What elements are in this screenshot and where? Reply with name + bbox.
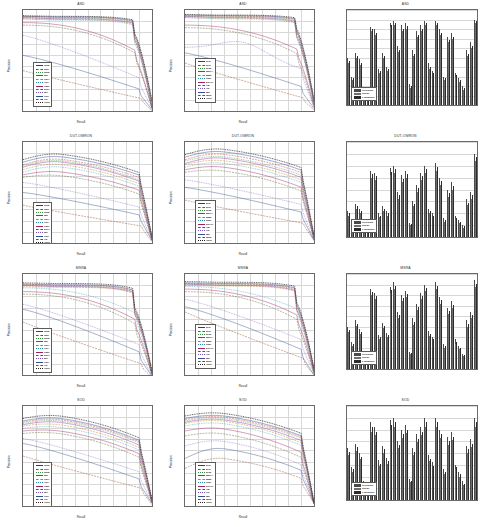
- legend-label: Ours: [206, 97, 212, 100]
- bar: [441, 300, 442, 369]
- legend-swatch: [198, 61, 205, 62]
- bar: [418, 188, 419, 237]
- legend-row: Ours: [36, 501, 50, 504]
- bar-group: [401, 142, 404, 237]
- bar: [437, 286, 438, 369]
- legend-swatch: [198, 482, 205, 483]
- bar-group: [451, 274, 454, 369]
- bar-legend: PrecisionRecallF-measure: [351, 87, 377, 101]
- panel-r2c2: DUT-OMRON0.20.30.40.50.60.70.80.9100.10.…: [162, 132, 324, 264]
- legend-swatch: [36, 242, 43, 243]
- legend-label: Ours: [44, 367, 50, 370]
- legend-swatch: [198, 240, 205, 241]
- panel-r1c2: ASD0.20.30.40.50.60.70.80.9100.10.20.30.…: [162, 0, 324, 132]
- bar: [422, 432, 423, 500]
- bar-group: [382, 274, 385, 369]
- panel-r2c3: DUT-OMRON00.10.20.30.40.50.60.70.8ACAIMC…: [324, 132, 487, 264]
- bar: [426, 23, 427, 105]
- bar-group: [390, 10, 393, 105]
- bar-group: [474, 10, 477, 105]
- gridline-horizontal: [347, 500, 477, 501]
- bar: [418, 35, 419, 105]
- bar: [403, 29, 404, 105]
- bar: [388, 69, 389, 105]
- bar-group: [474, 142, 477, 237]
- x-axis-label: Recall: [0, 120, 162, 124]
- curve-legend: ELEELDELMBSCABMDRSDDCHOHBHSMRMRDOurs: [195, 200, 216, 244]
- y-axis-label: Precision: [7, 60, 11, 73]
- legend-swatch: [36, 232, 43, 233]
- bar: [414, 204, 415, 237]
- bar-group: [405, 274, 408, 369]
- legend-swatch: [36, 345, 43, 346]
- bar: [476, 157, 477, 237]
- bar-group: [462, 406, 465, 500]
- legend-swatch: [36, 486, 43, 487]
- bar-group: [412, 406, 415, 500]
- legend-swatch: [198, 327, 205, 328]
- bar-group: [420, 142, 423, 237]
- bar-group: [347, 274, 350, 369]
- bar: [395, 23, 396, 105]
- bar-group: [405, 142, 408, 237]
- bar-group: [397, 142, 400, 237]
- bar: [453, 186, 454, 237]
- legend-swatch: [36, 219, 43, 220]
- bar-legend: PrecisionRecallF-measure: [351, 219, 377, 233]
- legend-swatch: [354, 225, 361, 227]
- bar-group: [412, 142, 415, 237]
- bar-group: [378, 274, 381, 369]
- bar: [445, 472, 446, 500]
- bar-group: [439, 406, 442, 500]
- bar: [449, 193, 450, 237]
- legend-swatch: [36, 75, 43, 76]
- bar: [384, 56, 385, 105]
- y-axis-label: Precision: [7, 192, 11, 205]
- bar-group: [393, 10, 396, 105]
- bar-group: [455, 10, 458, 105]
- bar-group: [466, 406, 469, 500]
- legend-swatch: [36, 358, 43, 359]
- panel-title: DUT-OMRON: [324, 134, 487, 138]
- bar-group: [382, 10, 385, 105]
- legend-swatch: [36, 341, 43, 342]
- bar: [411, 86, 412, 105]
- legend-row: Ours: [198, 97, 214, 100]
- bar-group: [378, 406, 381, 500]
- bar-group: [458, 142, 461, 237]
- bar-group: [393, 406, 396, 500]
- bar: [411, 224, 412, 237]
- bar: [395, 422, 396, 500]
- legend-swatch: [36, 362, 43, 363]
- bar: [476, 21, 477, 105]
- legend-swatch: [198, 95, 205, 96]
- bar: [430, 211, 431, 237]
- bar-group: [424, 10, 427, 105]
- legend-row: F-measure: [354, 360, 375, 363]
- legend-swatch: [36, 215, 43, 216]
- bar: [407, 430, 408, 501]
- legend-swatch: [36, 229, 43, 230]
- bar-group: [470, 142, 473, 237]
- bar: [418, 439, 419, 500]
- bar-group: [347, 142, 350, 237]
- bar-group: [428, 274, 431, 369]
- legend-label: F-measure: [362, 491, 375, 494]
- bar: [476, 284, 477, 370]
- legend-swatch: [36, 96, 43, 97]
- bar-legend: PrecisionRecallF-measure: [351, 482, 377, 496]
- bar-group: [451, 10, 454, 105]
- bar: [460, 222, 461, 237]
- bar-group: [386, 142, 389, 237]
- legend-swatch: [198, 98, 205, 99]
- legend-swatch: [354, 89, 361, 91]
- legend-swatch: [354, 484, 361, 486]
- bar-group: [455, 406, 458, 500]
- bar: [472, 46, 473, 105]
- bar-group: [462, 10, 465, 105]
- figure-grid: ASD0.20.30.40.50.60.70.80.9100.10.20.30.…: [0, 0, 487, 527]
- legend-swatch: [36, 368, 43, 369]
- legend-swatch: [354, 228, 361, 230]
- panel-r3c3: MSRA00.10.20.30.40.50.60.70.80.9ACAIMCAC…: [324, 264, 487, 396]
- y-axis-label: Precision: [169, 60, 173, 73]
